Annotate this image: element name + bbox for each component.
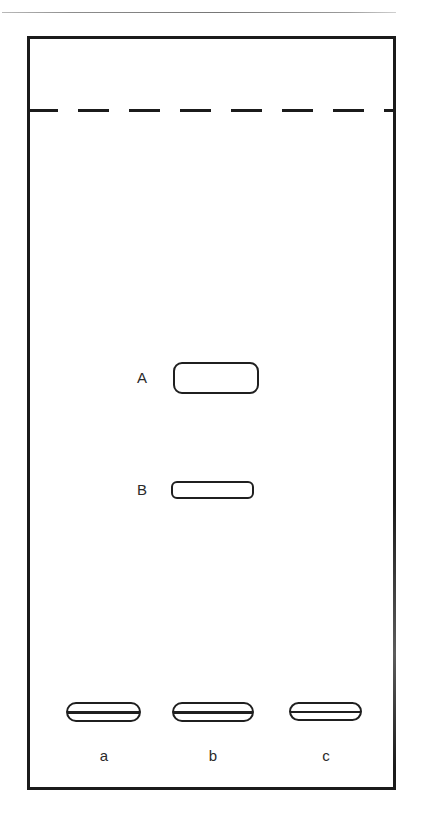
page-top-rule (2, 12, 396, 13)
lane-label-c: c (316, 748, 336, 763)
lane-label-a: a (94, 748, 114, 763)
plate-border-right (393, 36, 396, 790)
tlc-plate: A B a b c (27, 36, 396, 790)
plate-border-bottom (27, 787, 396, 790)
plate-border-left (27, 36, 30, 790)
solvent-front-line (27, 109, 396, 112)
tlc-plate-figure: A B a b c (0, 0, 424, 816)
origin-spot-lane-b (172, 702, 254, 722)
spot-b-band (171, 481, 254, 499)
spot-label-b: B (137, 482, 147, 497)
origin-spot-lane-c (289, 702, 362, 721)
plate-border-top (27, 36, 396, 39)
spot-a-band (173, 362, 259, 394)
origin-spot-lane-a (66, 702, 141, 722)
lane-label-b: b (203, 748, 223, 763)
spot-label-a: A (137, 370, 147, 385)
